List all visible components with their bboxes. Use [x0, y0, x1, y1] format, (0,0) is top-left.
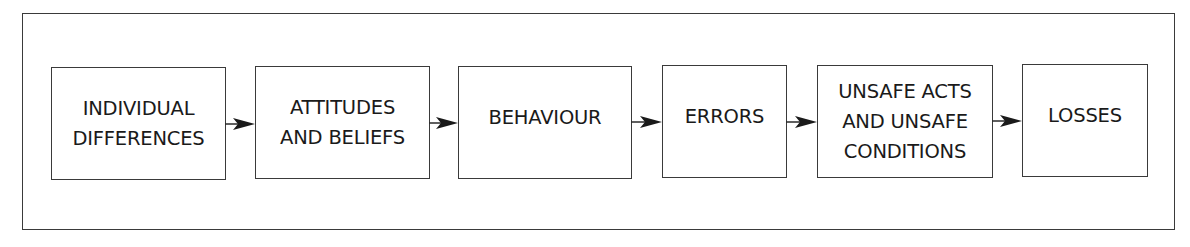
arrow-right-icon — [786, 114, 818, 130]
node-label: BEHAVIOUR — [489, 103, 602, 133]
arrow-right-icon — [429, 115, 459, 131]
node-individual-differences: INDIVIDUAL DIFFERENCES — [51, 67, 226, 180]
node-losses: LOSSES — [1022, 64, 1148, 177]
node-label: ERRORS — [685, 102, 765, 132]
arrow-right-icon — [992, 113, 1023, 129]
arrow-right-icon — [631, 114, 663, 130]
node-label: ATTITUDES AND BELIEFS — [280, 93, 405, 153]
arrow-right-icon — [225, 116, 256, 132]
node-behaviour: BEHAVIOUR — [458, 66, 632, 179]
node-label: INDIVIDUAL DIFFERENCES — [72, 94, 204, 154]
node-attitudes-and-beliefs: ATTITUDES AND BELIEFS — [255, 66, 430, 179]
node-unsafe-acts-and-conditions: UNSAFE ACTS AND UNSAFE CONDITIONS — [817, 65, 993, 178]
node-errors: ERRORS — [662, 65, 787, 178]
node-label: UNSAFE ACTS AND UNSAFE CONDITIONS — [838, 77, 971, 167]
node-label: LOSSES — [1048, 101, 1122, 131]
